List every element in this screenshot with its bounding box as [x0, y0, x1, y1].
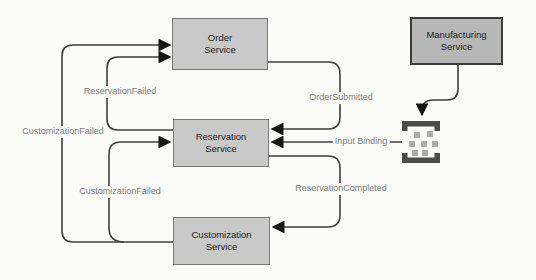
edge-label-reservation-failed: ReservationFailed: [82, 86, 159, 98]
architecture-diagram: Order Service Reservation Service Custom…: [0, 0, 536, 280]
edge-label-order-submitted: OrderSubmitted: [307, 92, 375, 104]
node-order-service: Order Service: [172, 18, 268, 70]
node-manufacturing-service: Manufacturing Service: [410, 17, 503, 65]
node-manufacturing-service-label-line1: Manufacturing: [426, 29, 486, 41]
node-reservation-service-label-line2: Service: [205, 143, 237, 155]
node-order-service-label-line1: Order: [208, 32, 232, 44]
edge-label-input-binding: Input Binding: [333, 136, 390, 148]
edge-label-customization-failed-to-reservation: CustomizationFailed: [77, 186, 163, 198]
edge-label-reservation-completed: ReservationCompleted: [293, 183, 389, 195]
node-manufacturing-service-label-line2: Service: [441, 41, 473, 53]
node-reservation-service: Reservation Service: [173, 119, 269, 167]
node-customization-service-label-line2: Service: [206, 241, 238, 253]
input-binding-icon: [402, 121, 440, 163]
node-customization-service-label-line1: Customization: [191, 229, 251, 241]
edge-manufacturing-to-binding: [422, 65, 458, 115]
node-reservation-service-label-line1: Reservation: [196, 131, 247, 143]
node-order-service-label-line2: Service: [204, 44, 236, 56]
edge-customization-failed-to-order: [62, 45, 173, 242]
node-customization-service: Customization Service: [173, 217, 270, 265]
edge-label-customization-failed-to-order: CustomizationFailed: [20, 126, 106, 138]
